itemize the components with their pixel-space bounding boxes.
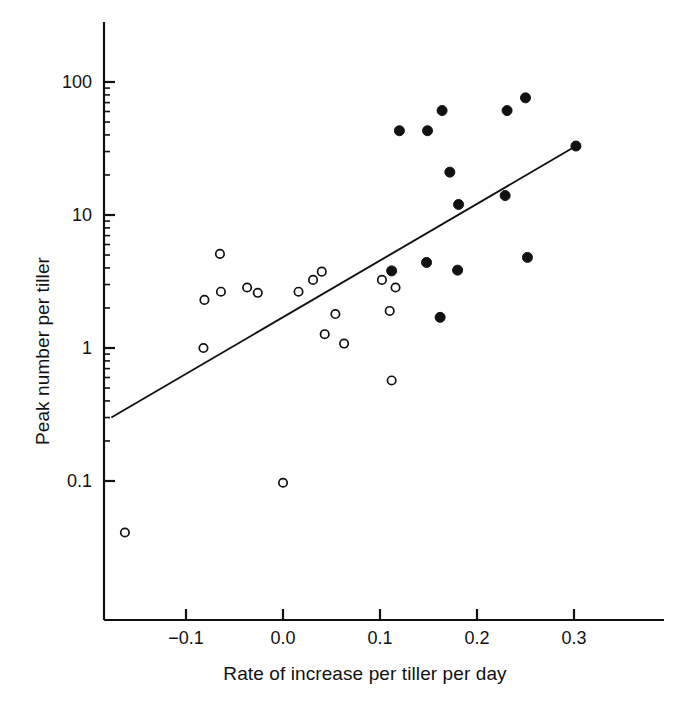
data-point-filled (437, 106, 447, 116)
data-point-open (318, 267, 326, 275)
data-point-open (331, 310, 339, 318)
data-point-filled (422, 257, 432, 267)
data-point-filled (571, 141, 581, 151)
data-point-filled (394, 126, 404, 136)
y-axis-title: Peak number per tiller (32, 226, 54, 476)
data-point-filled (453, 265, 463, 275)
data-point-open (279, 479, 287, 487)
y-tick-label: 1 (20, 338, 92, 359)
data-point-filled (445, 167, 455, 177)
x-tick-label: 0.0 (270, 628, 295, 649)
data-point-open (387, 376, 395, 384)
data-point-open (391, 283, 399, 291)
data-point-filled (521, 93, 531, 103)
regression-line (111, 146, 576, 418)
data-point-filled (522, 252, 532, 262)
data-point-open (121, 528, 129, 536)
data-point-filled (500, 191, 510, 201)
x-tick-label: 0.3 (561, 628, 586, 649)
data-point-open (199, 344, 207, 352)
data-points (121, 93, 581, 537)
y-tick-label: 0.1 (20, 471, 92, 492)
y-tick-label: 10 (20, 205, 92, 226)
plot-canvas (0, 0, 679, 722)
data-point-open (340, 339, 348, 347)
data-point-filled (423, 126, 433, 136)
regression-line-segment (111, 146, 576, 418)
data-point-filled (454, 199, 464, 209)
x-axis-title: Rate of increase per tiller per day (135, 663, 595, 685)
x-tick-label: 0.2 (464, 628, 489, 649)
data-point-filled (435, 312, 445, 322)
data-point-filled (502, 106, 512, 116)
data-point-open (200, 296, 208, 304)
data-point-open (243, 283, 251, 291)
data-point-filled (387, 266, 397, 276)
data-point-open (217, 288, 225, 296)
data-point-open (216, 250, 224, 258)
x-tick-label: 0.1 (367, 628, 392, 649)
data-point-open (294, 288, 302, 296)
scatter-plot-figure: 0.1110100 −0.10.00.10.20.3 Peak number p… (0, 0, 679, 722)
axis-ticks (104, 82, 574, 620)
data-point-open (386, 307, 394, 315)
data-point-open (254, 289, 262, 297)
data-point-open (378, 276, 386, 284)
axes-group (104, 22, 664, 620)
y-tick-label: 100 (20, 72, 92, 93)
data-point-open (321, 330, 329, 338)
data-point-open (309, 276, 317, 284)
x-tick-label: −0.1 (168, 628, 204, 649)
